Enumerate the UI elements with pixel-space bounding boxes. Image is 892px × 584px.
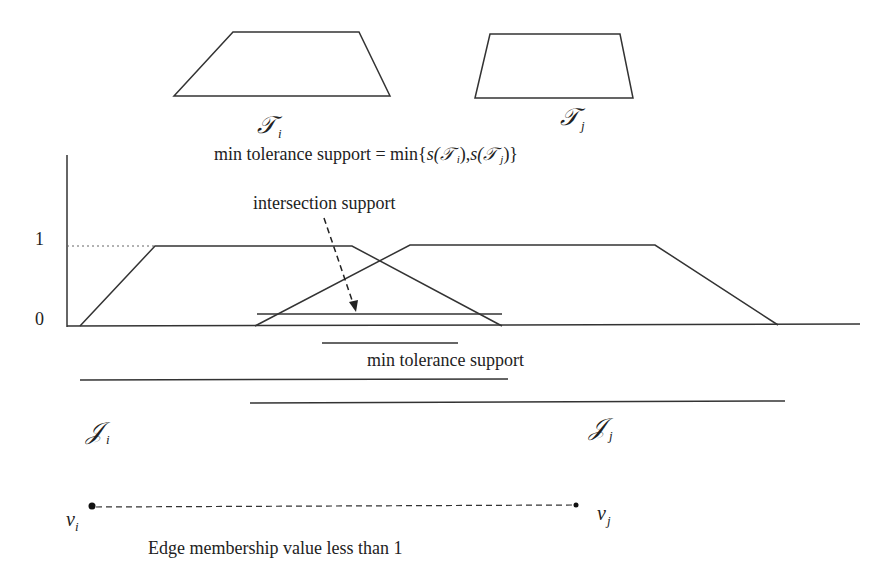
- label-tj-top: 𝒯j: [560, 104, 585, 134]
- edge-dashed-line: [96, 505, 574, 507]
- label-ij: 𝒥j: [589, 414, 613, 444]
- arrowhead-icon: [349, 300, 358, 312]
- vertex-vj-dot: [574, 503, 579, 508]
- support-ii-line: [80, 379, 508, 380]
- vertex-vi-dot: [89, 503, 96, 510]
- support-ij-line: [250, 401, 785, 403]
- trapezoid-ti-top: [174, 32, 390, 96]
- y-tick-1: 1: [35, 229, 44, 250]
- min-tolerance-support-label: min tolerance support: [367, 350, 524, 371]
- intersection-arrow: [324, 218, 353, 303]
- label-vi: vi: [66, 508, 79, 535]
- x-axis: [67, 324, 860, 326]
- label-ti-top: 𝒯i: [257, 112, 282, 142]
- edge-caption: Edge membership value less than 1: [148, 538, 402, 559]
- y-tick-0: 0: [35, 309, 44, 330]
- label-vj: vj: [597, 502, 611, 529]
- trapezoid-tj-top: [475, 34, 633, 98]
- label-ii: 𝒥i: [86, 418, 110, 448]
- diagram-canvas: [0, 0, 892, 584]
- formula-min-tolerance: min tolerance support = min{s(𝒯i),s(𝒯j)}: [214, 144, 518, 165]
- intersection-support-label: intersection support: [253, 193, 395, 214]
